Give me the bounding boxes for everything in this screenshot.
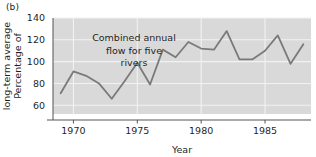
figure-panel: (b) 6080100120140 1970197519801985 Combi… [0,0,316,157]
y-axis-title-line-2: long-term average [1,22,12,111]
y-tick-label-60: 60 [33,100,45,111]
y-tick-label-100: 100 [27,56,45,67]
y-axis-title-line-1: Percentage of [12,33,23,99]
annotation-line-3: rivers [121,57,148,68]
y-axis-tick-labels: 6080100120140 [27,12,45,110]
y-tick-label-140: 140 [27,12,45,23]
x-axis-title: Year [171,144,192,155]
x-axis-tick-labels: 1970197519801985 [61,120,277,136]
chart-plot-area: 6080100120140 1970197519801985 Combined … [0,0,316,157]
annotation-line-2: flow for five [106,45,162,56]
x-tick-label-1985: 1985 [253,125,277,136]
x-tick-label-1970: 1970 [61,125,85,136]
annotation-line-1: Combined annual [92,32,176,43]
x-tick-label-1980: 1980 [189,125,213,136]
y-axis-title: Percentage oflong-term average [1,22,24,111]
line-chart: 6080100120140 1970197519801985 Combined … [0,0,316,157]
x-tick-label-1975: 1975 [125,125,149,136]
y-tick-label-120: 120 [27,34,45,45]
y-tick-label-80: 80 [33,78,45,89]
